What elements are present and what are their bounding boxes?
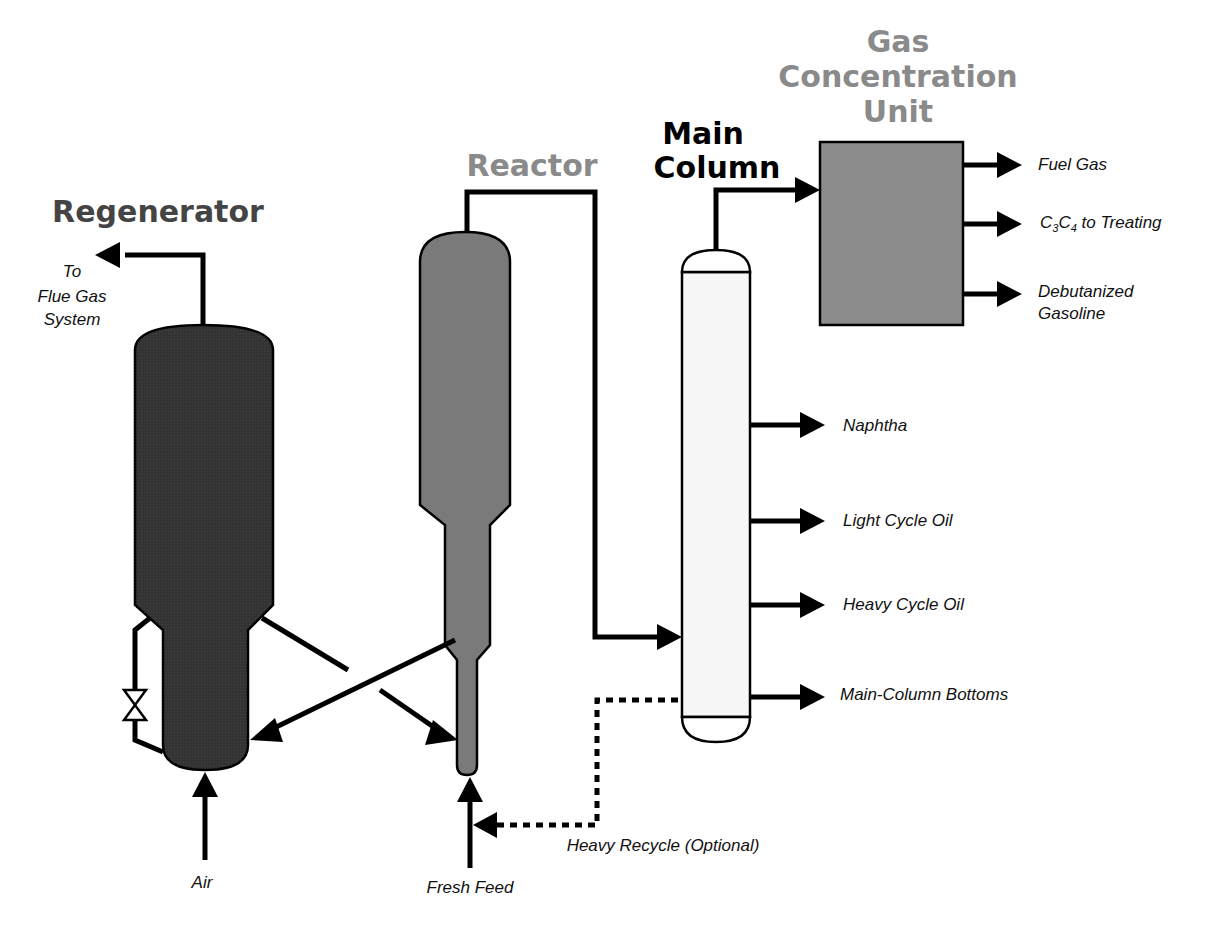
lco-arrow-icon	[800, 508, 825, 534]
valve-icon	[124, 690, 146, 720]
air-arrow-icon	[192, 772, 218, 797]
flue-gas-pipe	[125, 255, 203, 325]
bottoms-arrow-icon	[800, 684, 825, 710]
regenerator-title: Regenerator	[52, 194, 264, 229]
c3c4-arrow-icon	[997, 211, 1022, 237]
c3c4-label: C3C4 to Treating	[1040, 213, 1162, 234]
heavy-recycle-label: Heavy Recycle (Optional)	[567, 836, 760, 855]
debutanized-draw	[963, 281, 1022, 307]
naphtha-draw	[750, 412, 825, 438]
reactor-title: Reactor	[466, 148, 597, 183]
bottoms-label: Main-Column Bottoms	[840, 685, 1009, 704]
reactor-overhead-arrow-icon	[657, 624, 682, 650]
gcu-title-line1: Gas	[867, 24, 930, 59]
c3c4-draw	[963, 211, 1022, 237]
flue-label-line3: System	[44, 310, 101, 329]
flue-label-line2: Flue Gas	[38, 287, 107, 306]
lco-draw	[750, 508, 825, 534]
gcu-title-line3: Unit	[863, 94, 933, 129]
gcu-title-line2: Concentration	[778, 59, 1017, 94]
hco-label: Heavy Cycle Oil	[843, 595, 965, 614]
debutanized-arrow-icon	[997, 281, 1022, 307]
air-label: Air	[191, 873, 214, 892]
bypass-pipe-upper	[135, 618, 150, 690]
main-column-title-line2: Column	[654, 150, 781, 185]
heavy-recycle-pipe	[495, 700, 678, 825]
fuel-gas-label: Fuel Gas	[1038, 155, 1107, 174]
main-column-vessel	[682, 250, 750, 742]
spent-catalyst-pipe	[270, 640, 455, 730]
hco-draw	[750, 592, 825, 618]
regen-catalyst-pipe-a	[262, 618, 348, 670]
regenerator-vessel	[135, 325, 273, 770]
debutanized-label-line1: Debutanized	[1038, 282, 1134, 301]
lco-label: Light Cycle Oil	[843, 511, 954, 530]
spent-catalyst-arrow-icon	[250, 718, 283, 742]
fcc-process-diagram: Regenerator Reactor Main Column Gas Conc…	[0, 0, 1205, 928]
bottoms-draw	[750, 684, 825, 710]
reactor-vessel	[420, 232, 510, 775]
fuel-gas-arrow-icon	[997, 152, 1022, 178]
fresh-feed-arrow-icon	[457, 777, 483, 802]
regen-catalyst-pipe-b	[380, 690, 435, 728]
heavy-recycle-arrow-icon	[473, 812, 497, 838]
column-overhead-arrow-icon	[795, 177, 820, 203]
fuel-gas-draw	[963, 152, 1022, 178]
naphtha-arrow-icon	[800, 412, 825, 438]
main-column-title-line1: Main	[662, 116, 744, 151]
gcu-box	[820, 142, 963, 325]
debutanized-label-line2: Gasoline	[1038, 304, 1105, 323]
naphtha-label: Naphtha	[843, 416, 907, 435]
bypass-pipe-lower	[135, 720, 163, 752]
flue-label-line1: To	[63, 262, 81, 281]
column-overhead-pipe	[716, 190, 798, 250]
flue-gas-arrow-icon	[95, 242, 120, 268]
fresh-feed-label: Fresh Feed	[427, 878, 514, 897]
hco-arrow-icon	[800, 592, 825, 618]
